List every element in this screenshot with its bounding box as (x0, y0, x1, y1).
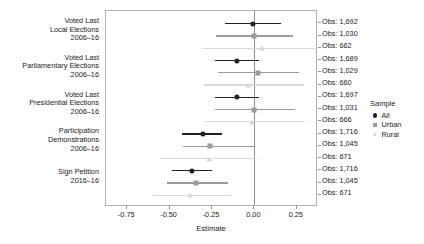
data-row (106, 170, 316, 171)
data-row (106, 72, 316, 73)
data-row (106, 36, 316, 37)
obs-tick-mark (318, 22, 321, 23)
data-row (106, 60, 316, 61)
obs-tick-mark (318, 194, 321, 195)
estimate-point-marker (234, 58, 239, 63)
x-axis-title: Estimate (105, 224, 317, 233)
obs-tick-mark (318, 145, 321, 146)
data-row (106, 158, 316, 159)
y-category-label: Voted Last Presidential Elections 2006–1… (29, 91, 99, 117)
y-category-label: Participation Demonstrations 2006–16 (48, 127, 99, 153)
obs-count-label: Obs: 671 (322, 189, 352, 198)
x-tick-mark (296, 206, 297, 209)
estimate-point-marker (252, 34, 257, 39)
estimate-point-marker (234, 95, 239, 100)
x-tick-mark (126, 206, 127, 209)
estimate-point-marker (200, 131, 205, 136)
obs-tick-mark (318, 133, 321, 134)
obs-tick-mark (318, 108, 321, 109)
x-tick-mark (253, 206, 254, 209)
forest-plot-chart: Voted Last Local Elections 2006–16Voted … (0, 0, 424, 244)
confidence-interval-bar (204, 84, 304, 85)
legend-marker-icon (370, 113, 380, 118)
obs-count-label: Obs: 662 (322, 42, 352, 51)
obs-count-label: Obs: 660 (322, 79, 352, 88)
estimate-point-marker (245, 83, 251, 88)
data-row (106, 183, 316, 184)
obs-tick-mark (318, 35, 321, 36)
obs-tick-mark (318, 96, 321, 97)
estimate-point-marker (249, 119, 255, 124)
obs-count-label: Obs: 1,045 (322, 177, 358, 186)
obs-count-label: Obs: 1,689 (322, 55, 358, 64)
data-row (106, 121, 316, 122)
obs-tick-mark (318, 84, 321, 85)
legend-label: Urban (380, 120, 401, 129)
obs-tick-mark (318, 169, 321, 170)
obs-tick-mark (318, 71, 321, 72)
obs-count-label: Obs: 1,697 (322, 91, 358, 100)
obs-count-label: Obs: 1,692 (322, 18, 358, 27)
legend-item[interactable]: All (370, 111, 424, 121)
obs-count-label: Obs: 1,045 (322, 140, 358, 149)
x-tick-label: -0.25 (203, 210, 220, 219)
legend-label: All (380, 111, 390, 120)
obs-count-label: Obs: 666 (322, 116, 352, 125)
estimate-point-marker (259, 46, 265, 51)
x-axis-ticks: -0.75-0.50-0.250.000.25 (105, 206, 317, 212)
y-axis-category-labels: Voted Last Local Elections 2006–16Voted … (0, 10, 102, 206)
legend-marker-icon (370, 132, 380, 136)
plot-panel (105, 10, 317, 206)
data-row (106, 23, 316, 24)
obs-count-label: Obs: 1,030 (322, 30, 358, 39)
data-row (106, 85, 316, 86)
x-tick-mark (169, 206, 170, 209)
y-category-label: Voted Last Parliamentary Elections 2006–… (22, 54, 99, 80)
data-row (106, 146, 316, 147)
data-row (106, 97, 316, 98)
estimate-point-marker (193, 181, 198, 186)
estimate-point-marker (255, 70, 260, 75)
obs-tick-mark (318, 47, 321, 48)
obs-tick-mark (318, 120, 321, 121)
obs-count-label: Obs: 1,716 (322, 165, 358, 174)
data-row (106, 109, 316, 110)
legend-item[interactable]: Rural (370, 130, 424, 140)
confidence-interval-bar (183, 146, 253, 147)
obs-count-label: Obs: 1,716 (322, 128, 358, 137)
legend: Sample AllUrbanRural (370, 100, 424, 139)
data-row (106, 48, 316, 49)
x-tick-label: -0.50 (160, 210, 177, 219)
obs-tick-mark (318, 59, 321, 60)
x-tick-label: 0.25 (289, 210, 303, 219)
legend-marker-icon (370, 123, 380, 127)
estimate-point-marker (206, 156, 212, 161)
data-row (106, 134, 316, 135)
estimate-point-marker (208, 144, 213, 149)
data-row (106, 195, 316, 196)
y-category-label: Sign Petition 2016–16 (58, 168, 99, 185)
legend-item[interactable]: Urban (370, 120, 424, 130)
estimate-point-marker (189, 168, 194, 173)
legend-label: Rural (380, 130, 399, 139)
legend-title: Sample (370, 100, 424, 108)
x-tick-label: -0.75 (118, 210, 135, 219)
legend-items: AllUrbanRural (370, 111, 424, 140)
obs-tick-mark (318, 157, 321, 158)
obs-count-label: Obs: 671 (322, 153, 352, 162)
obs-tick-mark (318, 182, 321, 183)
estimate-point-marker (252, 107, 257, 112)
estimate-point-marker (187, 193, 193, 198)
obs-count-label: Obs: 1,029 (322, 67, 358, 76)
x-tick-mark (211, 206, 212, 209)
x-tick-label: 0.00 (246, 210, 260, 219)
obs-count-label: Obs: 1,031 (322, 104, 358, 113)
y-category-label: Voted Last Local Elections 2006–16 (50, 17, 99, 43)
